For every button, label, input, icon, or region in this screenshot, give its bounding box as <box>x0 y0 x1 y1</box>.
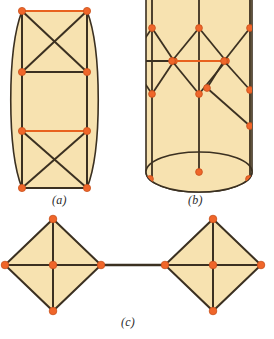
vertex-node <box>196 91 203 98</box>
vertex-node <box>196 25 203 32</box>
figure-label-c: (c) <box>121 315 135 330</box>
lens-body-outline <box>11 11 99 188</box>
vertex-node <box>83 184 90 191</box>
vertex-node <box>257 261 265 269</box>
vertex-node <box>1 261 9 269</box>
vertex-node <box>83 127 90 134</box>
vertex-node <box>209 307 217 315</box>
vertex-node-center <box>209 261 217 269</box>
vertex-node <box>83 7 90 14</box>
vertex-node <box>49 307 57 315</box>
vertex-node <box>18 68 25 75</box>
vertex-node <box>196 169 203 176</box>
vertex-node <box>204 85 211 92</box>
vertex-node <box>149 91 156 98</box>
figure-plate <box>0 0 274 339</box>
vertex-node <box>97 261 105 269</box>
vertex-node <box>209 215 217 223</box>
vertex-node <box>18 184 25 191</box>
vertex-node <box>49 215 57 223</box>
vertex-node <box>83 68 90 75</box>
panel-a-lens-truss <box>11 7 99 191</box>
vertex-node-center <box>49 261 57 269</box>
figure-label-b: (b) <box>188 193 203 208</box>
vertex-node <box>161 261 169 269</box>
vertex-node <box>221 58 228 65</box>
vertex-node <box>18 127 25 134</box>
vertex-node <box>169 58 176 65</box>
panel-b-cylinder-truss <box>130 0 274 192</box>
figure-label-a: (a) <box>52 193 67 208</box>
vertex-node <box>149 25 156 32</box>
vertex-node <box>18 7 25 14</box>
